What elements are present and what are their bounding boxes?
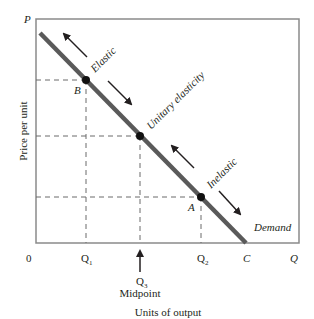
plot-frame	[36, 19, 299, 243]
point-midpoint	[136, 132, 144, 140]
elastic-label: Elastic	[87, 44, 118, 75]
p-axis-label: P	[23, 13, 31, 25]
arrow-down-right-icon	[108, 81, 131, 104]
q2-tick: Q2	[197, 252, 209, 267]
arrow-down-right-icon	[219, 191, 240, 214]
c-tick: C	[243, 252, 251, 264]
point-b-label: B	[74, 84, 81, 96]
inelastic-label: Inelastic	[203, 155, 239, 191]
origin-label: 0	[26, 252, 32, 264]
demand-label: Demand	[253, 221, 292, 233]
elasticity-diagram: Elastic Unitary elasticity Inelastic Dem…	[0, 0, 314, 319]
arrow-up-left-icon	[172, 146, 194, 168]
unitary-elasticity-label: Unitary elasticity	[144, 69, 207, 132]
midpoint-label: Midpoint	[120, 287, 161, 299]
q1-tick: Q1	[81, 252, 93, 267]
x-axis-title: Units of output	[135, 306, 202, 318]
arrow-up-left-icon	[64, 34, 87, 57]
point-b	[82, 76, 90, 84]
point-a	[197, 193, 205, 201]
q-axis-label: Q	[290, 252, 298, 264]
y-axis-title: Price per unit	[17, 101, 29, 160]
point-a-label: A	[187, 201, 195, 213]
